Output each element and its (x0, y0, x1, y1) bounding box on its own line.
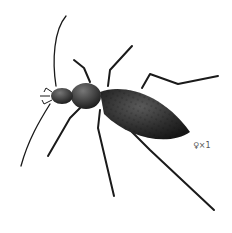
sex-scale-label: ♀×1 (193, 141, 211, 150)
beetle-drawing (0, 0, 232, 233)
head (51, 88, 73, 104)
thorax (71, 83, 101, 109)
beetle-illustration: ♀×1 (0, 0, 232, 233)
mandibles (40, 88, 52, 104)
